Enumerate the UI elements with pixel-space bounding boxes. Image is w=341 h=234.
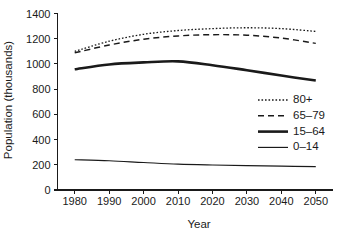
legend-label-65-79: 65–79 [293, 109, 325, 121]
x-tick-label: 2000 [131, 195, 155, 207]
x-axis-title: Year [187, 218, 210, 230]
x-tick-label: 2030 [235, 195, 259, 207]
series-lines [75, 28, 316, 167]
series-line-0-14 [75, 160, 316, 167]
y-axis-title: Population (thousands) [2, 41, 14, 159]
x-tick-label: 1980 [62, 195, 86, 207]
x-tick-label: 1990 [97, 195, 121, 207]
y-tick-label: 1200 [26, 33, 50, 45]
y-tick-label: 1400 [26, 8, 50, 20]
chart-canvas: 0200400600800100012001400 19801990200020… [0, 0, 341, 234]
x-tick-label: 2040 [269, 195, 293, 207]
x-axis-ticks: 19801990200020102020203020402050 [62, 190, 328, 207]
y-tick-label: 800 [32, 83, 50, 95]
y-axis-ticks: 0200400600800100012001400 [26, 8, 57, 197]
legend-label-80-: 80+ [293, 93, 313, 105]
series-line-15-64 [75, 61, 316, 80]
y-tick-label: 600 [32, 108, 50, 120]
y-tick-label: 400 [32, 134, 50, 146]
y-tick-label: 1000 [26, 58, 50, 70]
y-tick-label: 0 [44, 184, 50, 196]
y-tick-label: 200 [32, 159, 50, 171]
legend-label-15-64: 15–64 [293, 125, 326, 137]
series-line-65-79 [75, 35, 316, 53]
x-tick-label: 2050 [304, 195, 328, 207]
x-tick-label: 2010 [166, 195, 190, 207]
chart-legend: 80+65–7915–640–14 [258, 93, 326, 152]
legend-label-0-14: 0–14 [293, 140, 319, 152]
series-line-80- [75, 28, 316, 52]
x-tick-label: 2020 [200, 195, 224, 207]
population-line-chart: 0200400600800100012001400 19801990200020… [0, 0, 341, 234]
